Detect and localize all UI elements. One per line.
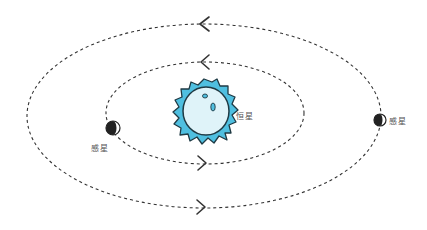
- orbit-diagram: 恒星 感星 感星: [0, 0, 427, 230]
- planet-left-icon: [106, 121, 120, 135]
- inner-bottom-arrow-icon: [198, 156, 206, 170]
- star-icon: [173, 79, 238, 144]
- planet-left-label: 感星: [91, 142, 108, 153]
- star-label: 恒星: [236, 110, 253, 121]
- planet-right-label: 感星: [389, 115, 406, 126]
- outer-bottom-arrow-icon: [197, 200, 205, 214]
- orbit-diagram-graphic: [0, 0, 427, 230]
- planet-right-icon: [374, 114, 386, 126]
